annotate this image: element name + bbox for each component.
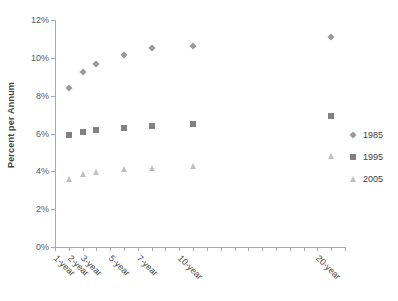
- y-axis-tick-label: 10%: [31, 53, 49, 63]
- x-axis-tick: [96, 247, 97, 251]
- y-axis-tick: [51, 58, 55, 59]
- data-point-2005-5-year: [121, 166, 127, 172]
- data-point-2005-10-year: [190, 163, 196, 169]
- y-axis-tick: [51, 171, 55, 172]
- x-axis-tick: [235, 247, 236, 251]
- x-axis-tick: [317, 247, 318, 251]
- x-axis-tick: [152, 247, 153, 251]
- legend-item-label: 1985: [363, 130, 383, 140]
- x-axis-tick: [165, 247, 166, 251]
- data-point-1995-1-year: [66, 132, 72, 138]
- data-point-2005-1-year: [66, 176, 72, 182]
- x-axis-tick: [304, 247, 305, 251]
- legend-item-label: 1995: [363, 152, 383, 162]
- y-axis-tick-label: 4%: [36, 166, 49, 176]
- y-axis-title-label: Percent per Annum: [6, 82, 16, 168]
- data-point-1995-20-year: [328, 113, 334, 119]
- x-axis-tick: [179, 247, 180, 251]
- chart-container: Percent per Annum 0%2%4%6%8%10%12% 1-yea…: [0, 0, 398, 301]
- x-axis-tick: [290, 247, 291, 251]
- legend-item-2005[interactable]: 2005: [348, 168, 398, 190]
- data-point-2005-20-year: [328, 153, 334, 159]
- legend-item-1985[interactable]: 1985: [348, 124, 398, 146]
- y-axis-tick-label: 8%: [36, 91, 49, 101]
- data-point-1995-5-year: [121, 125, 127, 131]
- x-axis-tick: [83, 247, 84, 251]
- data-point-1995-3-year: [93, 127, 99, 133]
- data-point-1985-3-year: [93, 61, 100, 68]
- x-axis-tick: [69, 247, 70, 251]
- y-axis-title: Percent per Annum: [0, 0, 22, 250]
- x-axis-tick-label: 5-year: [107, 253, 132, 278]
- y-axis-tick-label: 12%: [31, 15, 49, 25]
- x-axis-tick: [110, 247, 111, 251]
- x-axis-tick: [221, 247, 222, 251]
- x-axis-tick: [207, 247, 208, 251]
- x-axis-tick: [345, 247, 346, 251]
- x-axis-tick: [331, 247, 332, 251]
- diamond-marker-icon: [348, 130, 358, 140]
- y-axis-tick: [51, 20, 55, 21]
- y-axis-tick-label: 0%: [36, 242, 49, 252]
- x-axis-tick-label: 20-year: [314, 253, 343, 282]
- data-point-2005-2-year: [80, 171, 86, 177]
- data-point-2005-7-year: [149, 165, 155, 171]
- chart-legend: 198519952005: [348, 124, 398, 190]
- data-point-1995-10-year: [190, 121, 196, 127]
- data-point-1985-1-year: [65, 85, 72, 92]
- x-axis-tick-label: 10-year: [176, 253, 205, 282]
- x-axis-tick: [248, 247, 249, 251]
- x-axis-tick: [193, 247, 194, 251]
- y-axis-tick: [51, 134, 55, 135]
- x-axis-tick: [55, 247, 56, 251]
- data-point-2005-3-year: [93, 169, 99, 175]
- square-marker-icon: [348, 152, 358, 162]
- y-axis-tick: [51, 96, 55, 97]
- y-axis-tick: [51, 209, 55, 210]
- data-point-1985-2-year: [79, 68, 86, 75]
- x-axis-tick: [262, 247, 263, 251]
- legend-item-1995[interactable]: 1995: [348, 146, 398, 168]
- x-axis-line: [55, 247, 345, 248]
- data-point-1985-7-year: [148, 45, 155, 52]
- data-point-1985-10-year: [190, 42, 197, 49]
- plot-area: 0%2%4%6%8%10%12% 1-year2-year3-year5-yea…: [55, 20, 345, 247]
- data-point-1995-2-year: [80, 129, 86, 135]
- x-axis-tick: [138, 247, 139, 251]
- legend-item-label: 2005: [363, 174, 383, 184]
- y-axis-tick-label: 2%: [36, 204, 49, 214]
- triangle-marker-icon: [348, 174, 358, 184]
- data-point-1995-7-year: [149, 123, 155, 129]
- data-point-1985-5-year: [121, 51, 128, 58]
- y-axis-tick-label: 6%: [36, 129, 49, 139]
- x-axis-tick-label: 7-year: [135, 253, 160, 278]
- data-point-1985-20-year: [328, 33, 335, 40]
- x-axis-tick: [124, 247, 125, 251]
- x-axis-tick: [276, 247, 277, 251]
- y-axis-line: [55, 20, 56, 247]
